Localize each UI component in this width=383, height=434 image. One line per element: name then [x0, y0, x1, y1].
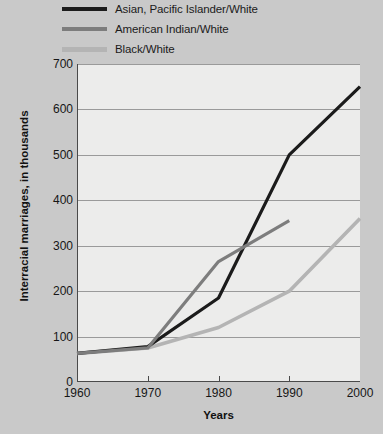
legend-line-swatch-icon: [62, 27, 107, 31]
x-axis-title: Years: [77, 409, 360, 421]
legend-line-swatch-icon: [62, 7, 107, 11]
y-axis-tick-label: 100: [33, 330, 73, 344]
x-axis-tick-label: 2000: [347, 386, 374, 400]
chart-legend: Asian, Pacific Islander/White American I…: [62, 2, 258, 56]
y-axis-tick-label: 400: [33, 193, 73, 207]
series-line: [77, 218, 360, 353]
x-axis-tick-label: 1970: [134, 386, 161, 400]
legend-item-american-indian-white: American Indian/White: [62, 22, 258, 36]
legend-item-label: Asian, Pacific Islander/White: [115, 3, 258, 15]
y-axis-tick-label: 300: [33, 239, 73, 253]
x-axis-tick-label: 1980: [205, 386, 232, 400]
y-axis-tick-label: 600: [33, 102, 73, 116]
data-series-lines: [77, 64, 360, 382]
legend-item-black-white: Black/White: [62, 42, 258, 56]
plot-area: 0100200300400500600700 19601970198019902…: [77, 64, 360, 382]
y-axis-tick-label: 500: [33, 148, 73, 162]
legend-item-asian-pacific-islander-white: Asian, Pacific Islander/White: [62, 2, 258, 16]
series-line: [77, 87, 360, 354]
x-axis-tick-label: 1960: [64, 386, 91, 400]
x-axis-tick-label: 1990: [276, 386, 303, 400]
y-axis-title: Interracial marriages, in thousands: [18, 46, 30, 366]
y-axis-tick-label: 700: [33, 57, 73, 71]
chart-page: Asian, Pacific Islander/White American I…: [0, 0, 383, 434]
series-line: [77, 221, 289, 354]
legend-line-swatch-icon: [62, 47, 107, 52]
legend-item-label: American Indian/White: [115, 23, 229, 35]
y-axis-tick-label: 200: [33, 284, 73, 298]
legend-item-label: Black/White: [115, 43, 175, 55]
